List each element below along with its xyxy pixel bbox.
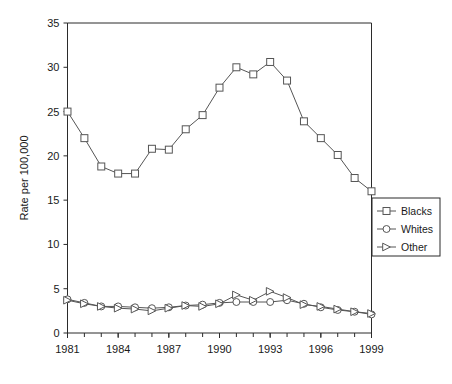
legend-label: Other (401, 241, 428, 253)
data-point-square (317, 135, 324, 142)
y-tick-label: 10 (47, 238, 59, 250)
legend-label: Blacks (401, 205, 432, 217)
data-point-square (233, 64, 240, 71)
data-point-square (368, 188, 375, 195)
x-tick-label: 1984 (106, 343, 130, 355)
y-tick-label: 25 (47, 106, 59, 118)
data-point-square (250, 71, 257, 78)
data-point-square (351, 175, 358, 182)
data-point-square (64, 108, 71, 115)
data-point-square (81, 135, 88, 142)
data-point-square (334, 151, 341, 158)
data-point-square (383, 208, 390, 215)
x-tick-label: 1993 (258, 343, 282, 355)
x-tick-label: 1990 (207, 343, 231, 355)
data-point-circle (267, 299, 274, 306)
data-point-circle (383, 226, 390, 233)
y-axis-title: Rate per 100,000 (18, 135, 30, 220)
y-axis-title-text: Rate per 100,000 (18, 135, 30, 220)
chart-figure: 05101520253035 1981198419871990199319961… (0, 0, 452, 384)
data-point-square (165, 146, 172, 153)
data-point-square (132, 170, 139, 177)
y-tick-label: 35 (47, 17, 59, 29)
data-point-square (148, 145, 155, 152)
data-point-square (284, 77, 291, 84)
data-point-square (115, 170, 122, 177)
data-point-square (199, 112, 206, 119)
y-tick-label: 20 (47, 150, 59, 162)
data-point-square (182, 126, 189, 133)
data-point-circle (233, 299, 240, 306)
chart-legend[interactable]: BlacksWhitesOther (372, 198, 440, 256)
x-tick-label: 1999 (359, 343, 383, 355)
y-tick-label: 15 (47, 194, 59, 206)
line-chart: 05101520253035 1981198419871990199319961… (0, 0, 452, 384)
data-point-square (300, 118, 307, 125)
y-tick-label: 30 (47, 61, 59, 73)
data-point-square (216, 84, 223, 91)
data-point-square (98, 163, 105, 170)
x-tick-label: 1996 (309, 343, 333, 355)
y-tick-label: 0 (53, 327, 59, 339)
legend-label: Whites (401, 223, 433, 235)
y-tick-label: 5 (53, 283, 59, 295)
x-tick-label: 1981 (55, 343, 79, 355)
data-point-square (267, 58, 274, 65)
x-tick-label: 1987 (157, 343, 181, 355)
